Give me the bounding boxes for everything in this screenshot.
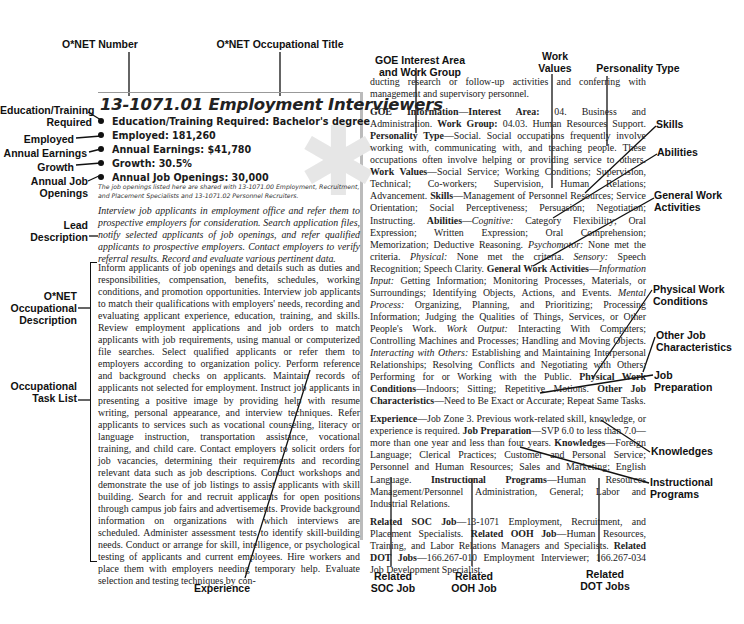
bullet-icon <box>98 132 104 138</box>
callout-annual-earnings: Annual Earnings <box>0 147 87 159</box>
fact-employed: Employed: 181,260 <box>98 129 358 143</box>
callout-work-values: WorkValues <box>530 50 580 74</box>
callout-gwa: General WorkActivities <box>654 189 722 213</box>
lead-description: Interview job applicants in employment o… <box>98 205 360 265</box>
callout-annual-openings: Annual JobOpenings <box>0 175 88 199</box>
fact-earnings: Annual Earnings: $41,780 <box>98 143 358 157</box>
right-column: ducting research or follow-up activities… <box>370 76 646 582</box>
callout-instructional: InstructionalPrograms <box>650 476 713 500</box>
title-rule <box>98 92 360 93</box>
callout-physical: Physical WorkConditions <box>653 283 725 307</box>
callout-onet-number: O*NET Number <box>40 38 160 50</box>
callout-other-job: Other JobCharacteristics <box>656 329 732 353</box>
callout-job-prep: JobPreparation <box>654 369 712 393</box>
goe-block: GOE Information—Interest Area: 04. Busin… <box>370 106 646 407</box>
related-jobs-block: Related SOC Job—13-1071 Employment, Recr… <box>370 516 646 576</box>
callout-growth: Growth <box>0 161 74 173</box>
experience-block: Experience—Job Zone 3. Previous work-rel… <box>370 413 646 509</box>
fact-education: Education/Training Required: Bachelor's … <box>98 115 358 129</box>
callout-education: Education/TrainingRequired <box>0 104 92 128</box>
bullet-icon <box>98 174 104 180</box>
bullet-icon <box>98 160 104 166</box>
description-bracket <box>90 262 97 562</box>
callout-task-list: OccupationalTask List <box>0 380 77 404</box>
callout-skills: Skills <box>656 118 683 130</box>
task-description: Inform applicants of job openings and de… <box>98 262 360 587</box>
callout-knowledges: Knowledges <box>651 445 713 457</box>
callout-employed: Employed <box>0 133 74 145</box>
callout-personality-type: Personality Type <box>583 62 693 74</box>
bullet-icon <box>98 118 104 124</box>
callout-onet-title: O*NET Occupational Title <box>200 38 360 50</box>
openings-note: The job openings listed here are shared … <box>98 182 362 200</box>
bullet-icon <box>98 146 104 152</box>
callout-lead-description: LeadDescription <box>0 219 88 243</box>
description-continuation: ducting research or follow-up activities… <box>370 76 646 100</box>
callout-goe: GOE Interest Areaand Work Group <box>370 54 470 78</box>
callout-onet-description: O*NETOccupationalDescription <box>0 290 77 326</box>
quick-facts: Education/Training Required: Bachelor's … <box>98 115 358 185</box>
fact-growth: Growth: 30.5% <box>98 157 358 171</box>
callout-abilities: Abilities <box>657 146 698 158</box>
